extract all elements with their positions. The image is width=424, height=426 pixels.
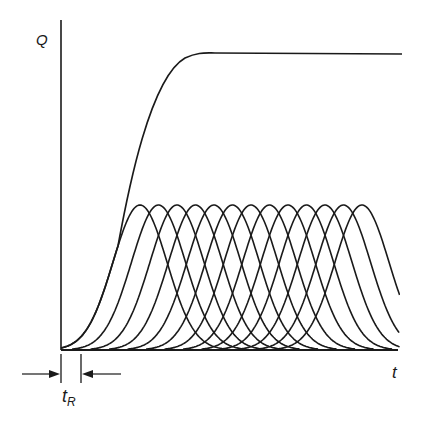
tR-label: tR — [62, 386, 76, 409]
pulse-curves — [61, 205, 400, 349]
hydrograph-diagram: Q t tR — [0, 0, 424, 426]
cumulative-curve — [61, 53, 402, 348]
y-axis-label: Q — [36, 31, 48, 48]
arrowhead-left-icon — [82, 370, 93, 378]
tR-annotation: tR — [22, 354, 121, 409]
x-axis-label: t — [392, 363, 398, 382]
arrowhead-right-icon — [49, 370, 60, 378]
